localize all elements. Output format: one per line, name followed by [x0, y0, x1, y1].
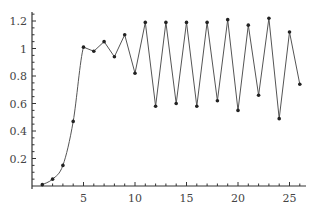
data-point [71, 120, 75, 124]
data-point [133, 71, 137, 75]
y-tick-label: 0.6 [10, 98, 28, 111]
y-tick-label: 0.2 [10, 153, 28, 166]
y-tick-label: 0.8 [10, 70, 28, 83]
x-tick-label: 25 [283, 192, 297, 205]
tick-marks [32, 14, 300, 186]
data-point [123, 33, 127, 37]
data-markers [41, 16, 302, 186]
x-tick-label: 15 [180, 192, 194, 205]
data-point [195, 104, 199, 108]
data-point [247, 23, 251, 27]
data-point [144, 21, 148, 25]
line-chart: 5101520250.20.40.60.811.2 [0, 0, 317, 207]
data-point [226, 18, 230, 22]
data-point [205, 21, 209, 25]
y-tick-label: 1 [20, 43, 27, 56]
data-point [277, 117, 281, 121]
data-point [288, 30, 292, 34]
data-point [41, 183, 45, 187]
axes [32, 12, 306, 189]
data-point [113, 55, 117, 59]
data-point [257, 93, 261, 97]
data-point [174, 102, 178, 106]
data-point [185, 21, 189, 25]
tick-labels: 5101520250.20.40.60.811.2 [10, 15, 297, 205]
y-tick-label: 0.4 [10, 125, 28, 138]
data-point [92, 49, 96, 53]
data-point [236, 109, 240, 113]
data-point [154, 104, 158, 108]
data-point [61, 164, 65, 168]
data-point [267, 16, 271, 20]
data-point [51, 177, 55, 181]
data-point [82, 45, 86, 49]
data-point [102, 40, 106, 44]
data-point [298, 82, 302, 86]
data-line [42, 18, 300, 184]
x-tick-label: 5 [80, 192, 87, 205]
chart-container: 5101520250.20.40.60.811.2 [0, 0, 317, 207]
x-tick-label: 10 [128, 192, 142, 205]
x-tick-label: 20 [231, 192, 245, 205]
data-point [216, 99, 220, 103]
y-tick-label: 1.2 [10, 15, 28, 28]
data-point [164, 21, 168, 25]
